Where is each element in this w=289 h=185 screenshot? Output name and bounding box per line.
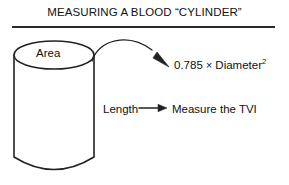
formula-exponent: 2 [262, 57, 266, 66]
figure-container: MEASURING A BLOOD “CYLINDER” Area 0.785 … [0, 0, 289, 185]
cylinder-body [14, 55, 94, 170]
formula-operand: Diameter [212, 59, 262, 71]
curved-arrow-head [153, 52, 169, 67]
area-formula-label: 0.785 × Diameter2 [174, 59, 266, 71]
cylinder-diagram [0, 0, 289, 185]
formula-coefficient: 0.785 [174, 59, 206, 71]
area-label: Area [36, 47, 60, 59]
length-label: Length [103, 103, 138, 115]
tvi-label: Measure the TVI [172, 103, 257, 115]
length-arrow-head [158, 104, 167, 112]
curved-arrow-line [92, 40, 152, 61]
